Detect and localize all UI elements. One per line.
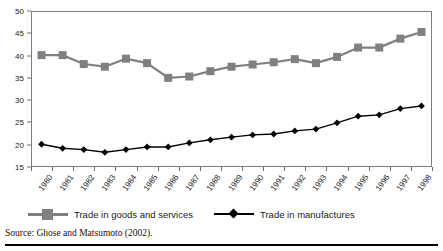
data-point-square <box>164 74 172 82</box>
data-point-diamond <box>123 146 130 153</box>
data-point-square <box>417 28 425 36</box>
source-note: Source: Ghose and Matsumoto (2002). <box>5 228 438 238</box>
data-point-square <box>101 63 109 71</box>
legend-item-goods-and-services: Trade in goods and services <box>28 203 193 225</box>
data-point-square <box>291 55 299 63</box>
legend-label-goods-and-services: Trade in goods and services <box>74 209 193 220</box>
figure-container: 1520253035404550 19801981198219831984198… <box>0 0 443 251</box>
data-point-diamond <box>101 149 108 156</box>
data-point-diamond <box>334 119 341 126</box>
data-point-diamond <box>186 140 193 147</box>
source-row: Source: Ghose and Matsumoto (2002). <box>5 228 438 238</box>
data-point-diamond <box>165 144 172 151</box>
data-point-diamond <box>291 128 298 135</box>
data-point-square <box>249 60 257 68</box>
data-point-square <box>228 63 236 71</box>
data-point-diamond <box>207 136 214 143</box>
data-point-diamond <box>80 146 87 153</box>
data-point-diamond <box>355 113 362 120</box>
data-point-diamond <box>144 144 151 151</box>
data-point-diamond <box>249 132 256 139</box>
diamond-marker-icon <box>229 209 239 219</box>
data-point-square <box>375 44 383 52</box>
data-point-square <box>312 59 320 67</box>
legend-label-manufactures: Trade in manufactures <box>260 209 355 220</box>
data-point-square <box>59 51 67 59</box>
data-point-square <box>143 59 151 67</box>
data-point-square <box>80 60 88 68</box>
series-line <box>42 32 422 78</box>
series-layer <box>0 0 443 200</box>
data-point-diamond <box>418 103 425 110</box>
horizontal-rule <box>5 244 438 246</box>
series-line <box>42 106 422 152</box>
data-point-square <box>354 44 362 52</box>
series-goods-and-services <box>38 28 426 82</box>
chart-legend: Trade in goods and services Trade in man… <box>0 203 443 225</box>
data-point-diamond <box>228 134 235 141</box>
data-point-diamond <box>397 105 404 112</box>
square-marker-icon <box>42 209 53 220</box>
data-point-square <box>396 35 404 43</box>
data-point-square <box>122 55 130 63</box>
data-point-diamond <box>270 131 277 138</box>
legend-item-manufactures: Trade in manufactures <box>214 203 355 225</box>
data-point-square <box>270 58 278 66</box>
data-point-square <box>185 73 193 81</box>
data-point-diamond <box>59 145 66 152</box>
data-point-diamond <box>38 141 45 148</box>
legend-swatch-goods-and-services <box>28 207 68 221</box>
chart-plot-area: 1520253035404550 19801981198219831984198… <box>0 0 443 200</box>
data-point-square <box>206 67 214 75</box>
data-point-square <box>38 51 46 59</box>
legend-swatch-manufactures <box>214 207 254 221</box>
data-point-diamond <box>376 111 383 118</box>
data-point-square <box>333 53 341 61</box>
series-manufactures <box>38 103 425 156</box>
data-point-diamond <box>313 126 320 133</box>
